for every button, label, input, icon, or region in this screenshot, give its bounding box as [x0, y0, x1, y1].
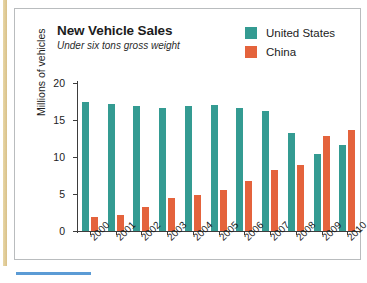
bar-united-states	[82, 102, 89, 231]
y-axis-title: Millions of vehicles	[35, 28, 47, 116]
y-tick-mark: 10	[73, 157, 78, 158]
bar-china	[323, 136, 330, 231]
y-tick-label: 5	[59, 188, 65, 200]
chart-legend: United States China	[245, 23, 335, 61]
bar-united-states	[314, 154, 321, 231]
legend-label-china: China	[266, 46, 296, 58]
y-tick-label: 20	[53, 77, 65, 89]
bar-china	[245, 181, 252, 231]
bar-united-states	[236, 108, 243, 231]
y-tick-mark: 15	[73, 120, 78, 121]
y-tick-mark: 5	[73, 194, 78, 195]
bar-united-states	[339, 145, 346, 231]
legend-swatch-united-states	[245, 27, 257, 39]
legend-item-china: China	[245, 42, 335, 61]
legend-swatch-china	[245, 46, 257, 58]
legend-item-united-states: United States	[245, 23, 335, 42]
y-tick-label: 10	[53, 151, 65, 163]
bar-united-states	[288, 133, 295, 231]
bar-china	[348, 130, 355, 231]
bar-united-states	[211, 105, 218, 231]
bar-united-states	[159, 108, 166, 231]
bar-united-states	[133, 106, 140, 231]
y-tick-mark: 20	[73, 83, 78, 84]
figure-frame: New Vehicle Sales Under six tons gross w…	[14, 8, 361, 260]
page-edge-rail	[3, 0, 7, 266]
bar-united-states	[108, 104, 115, 231]
bar-united-states	[185, 106, 192, 231]
chart-title: New Vehicle Sales	[57, 23, 257, 38]
caption-rule	[16, 272, 91, 275]
bar-china	[297, 165, 304, 231]
y-tick-mark: 0	[73, 231, 78, 232]
plot-area: 05101520 2000200120022003200420052006200…	[78, 83, 361, 231]
chart-header: New Vehicle Sales Under six tons gross w…	[57, 23, 257, 52]
legend-label-united-states: United States	[266, 27, 335, 39]
chart-subtitle: Under six tons gross weight	[57, 39, 257, 52]
y-tick-label: 0	[59, 225, 65, 237]
bar-china	[271, 170, 278, 231]
bar-united-states	[262, 111, 269, 231]
y-tick-label: 15	[53, 114, 65, 126]
page-canvas: New Vehicle Sales Under six tons gross w…	[0, 0, 367, 283]
